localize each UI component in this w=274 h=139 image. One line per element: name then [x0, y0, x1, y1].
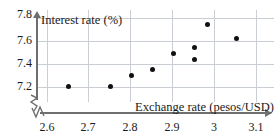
data-point — [108, 84, 113, 89]
y-tick-label: 7.8 — [2, 8, 32, 20]
plot-area: 7.8 7.6 7.4 7.2 2.6 2.7 2.8 2.9 3 3.1 In… — [0, 0, 274, 139]
x-tick-label: 2.6 — [27, 121, 67, 133]
y-tick-label: 7.6 — [2, 34, 32, 46]
data-point — [150, 67, 155, 72]
y-axis-title: Interest rate (%) — [41, 14, 122, 27]
gridline-vertical — [130, 10, 131, 102]
x-tick-label: 2.7 — [68, 121, 108, 133]
gridline-horizontal — [37, 41, 274, 42]
y-axis-arrow-icon — [33, 11, 41, 18]
x-tick-label: 2.8 — [110, 121, 150, 133]
data-point — [192, 45, 197, 50]
data-point — [66, 84, 71, 89]
x-tick-label: 3.1 — [236, 121, 274, 133]
x-axis-break-icon — [31, 105, 49, 119]
data-point — [205, 22, 210, 27]
y-tick-label: 7.2 — [2, 80, 32, 92]
data-point — [192, 57, 197, 62]
gridline-horizontal — [37, 64, 274, 65]
x-axis-title: Exchange rate (pesos/USD) — [135, 101, 274, 114]
y-tick-label: 7.4 — [2, 57, 32, 69]
gridline-vertical — [256, 10, 257, 102]
data-point — [171, 51, 176, 56]
x-tick-label: 3 — [194, 121, 234, 133]
x-tick-label: 2.9 — [152, 121, 192, 133]
scatter-plot-figure: 7.8 7.6 7.4 7.2 2.6 2.7 2.8 2.9 3 3.1 In… — [0, 0, 274, 139]
data-point — [234, 36, 239, 41]
data-point — [129, 73, 134, 78]
gridline-vertical — [214, 10, 215, 102]
gridline-vertical — [172, 10, 173, 102]
y-axis-line — [36, 17, 38, 100]
gridline-horizontal — [37, 87, 274, 88]
